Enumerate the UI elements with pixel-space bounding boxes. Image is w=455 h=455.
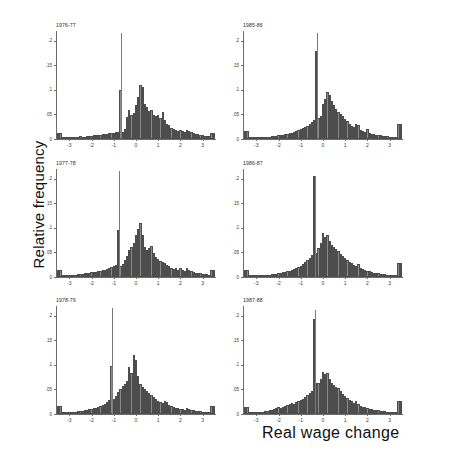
y-tick-label: 0 [225,137,239,142]
x-tick [345,414,346,416]
x-tick [69,414,70,416]
x-tick-label: -3 [248,280,264,286]
x-tick-label: -3 [61,142,77,148]
x-tick-label: -2 [84,280,100,286]
x-tick [180,139,181,141]
histogram-bar [213,270,215,277]
spike-line [119,171,120,277]
x-tick [390,139,391,141]
plot-area: 0.05.1.15.2-3-2-10123 [243,306,403,414]
x-tick [256,277,257,279]
x-tick [301,414,302,416]
x-tick-label: 0 [128,417,144,423]
x-tick-label: 0 [128,280,144,286]
y-tick-label: .1 [38,362,52,367]
x-tick [323,414,324,416]
x-tick [390,277,391,279]
x-tick-label: 2 [359,417,375,423]
x-tick-label: 2 [172,417,188,423]
x-tick-label: 3 [195,280,211,286]
y-tick-label: .05 [38,387,52,392]
y-tick-label: .1 [225,225,239,230]
y-tick-label: .2 [38,313,52,318]
x-tick [180,414,181,416]
x-tick [301,277,302,279]
x-tick [345,139,346,141]
x-tick [367,139,368,141]
x-tick [279,414,280,416]
x-tick-label: -2 [84,142,100,148]
x-tick [136,277,137,279]
y-tick-label: .15 [225,338,239,343]
x-tick-label: 3 [195,417,211,423]
x-tick-label: -3 [248,417,264,423]
y-tick-label: .1 [38,87,52,92]
x-tick-label: -2 [271,280,287,286]
x-tick-label: -1 [106,280,122,286]
x-tick [136,414,137,416]
x-tick [92,139,93,141]
x-tick-label: -3 [61,280,77,286]
x-tick [279,277,280,279]
x-tick-label: 3 [382,142,398,148]
x-tick [203,277,204,279]
histogram-bar [213,406,215,414]
x-tick [158,414,159,416]
x-tick-label: 1 [337,142,353,148]
panel-title: 1976-77 [56,22,76,28]
x-tick [323,139,324,141]
y-tick-label: 0 [38,275,52,280]
x-tick-label: 2 [359,280,375,286]
x-tick-label: 2 [172,280,188,286]
y-tick-label: 0 [38,412,52,417]
x-tick [114,139,115,141]
x-tick-label: 0 [315,280,331,286]
x-tick-label: -1 [106,142,122,148]
bar-series [56,306,216,414]
plot-area: 0.05.1.15.2-3-2-10123 [56,31,216,139]
y-tick-label: .2 [225,38,239,43]
histogram-bar [400,263,402,277]
y-tick-label: 0 [38,137,52,142]
y-tick [241,139,243,140]
x-tick [390,414,391,416]
y-tick-label: .2 [38,38,52,43]
histogram-panel-1977-78: 1977-780.05.1.15.2-3-2-10123 [56,160,216,291]
x-tick-label: 3 [382,417,398,423]
spike-line [317,33,318,139]
x-tick-label: -2 [84,417,100,423]
histogram-panel-1978-79: 1978-790.05.1.15.2-3-2-10123 [56,297,216,428]
x-tick-label: 1 [150,142,166,148]
x-tick [180,277,181,279]
bar-series [243,169,403,277]
x-tick-label: -1 [293,417,309,423]
y-tick [54,414,56,415]
x-tick-label: 1 [337,417,353,423]
histogram-panel-1987-88: 1987-880.05.1.15.2-3-2-10123 [243,297,403,428]
y-tick-label: .05 [38,250,52,255]
y-tick-label: 0 [225,275,239,280]
plot-area: 0.05.1.15.2-3-2-10123 [243,31,403,139]
y-tick-label: .05 [38,112,52,117]
x-tick-label: 1 [337,280,353,286]
y-tick [54,277,56,278]
x-tick [367,277,368,279]
y-tick-label: .05 [225,250,239,255]
x-tick [203,414,204,416]
panel-title: 1978-79 [56,297,76,303]
x-tick-label: 1 [150,417,166,423]
y-tick-label: .1 [38,225,52,230]
x-tick [158,139,159,141]
x-tick [69,139,70,141]
y-tick-label: .15 [38,201,52,206]
y-tick-label: 0 [225,412,239,417]
x-tick [69,277,70,279]
histogram-panel-1985-86: 1985-860.05.1.15.2-3-2-10123 [243,22,403,153]
y-tick-label: .05 [225,112,239,117]
spike-line [315,310,316,414]
x-tick-label: -1 [106,417,122,423]
x-tick [256,139,257,141]
x-tick-label: 0 [128,142,144,148]
x-tick [114,277,115,279]
x-tick-label: -1 [293,142,309,148]
